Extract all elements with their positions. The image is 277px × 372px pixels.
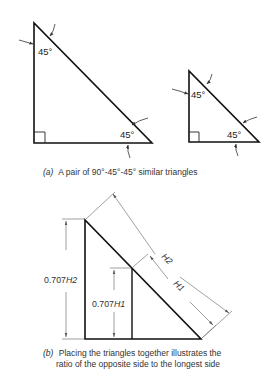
large-triangle-outline [34,23,152,143]
caption-a: (a) A pair of 90°-45°-45° similar triang… [43,167,197,177]
arrow-icon [132,118,148,125]
right-angle-marker [189,132,199,142]
arrow-icon [172,89,188,94]
small-triangle: 45° 45° [172,71,259,156]
dimension-inner-hypotenuse: H1 [133,254,216,338]
arrow-icon [128,145,130,158]
large-bottom-angle-label: 45° [120,129,135,140]
caption-b-line2: ratio of the opposite side to the longes… [56,359,220,369]
large-triangle: 45° 45° [19,23,152,158]
caption-b-label: (b) [43,348,54,358]
arrow-icon [236,144,238,156]
arrow-icon [243,117,257,123]
dimension-inner-height: 0.707H1 [92,268,131,337]
caption-b-line1: (b) Placing the triangles together illus… [43,348,222,358]
dimension-outer-hypotenuse: H2 [86,192,232,338]
caption-a-label: (a) [43,167,54,177]
arrow-icon [19,40,33,44]
similar-triangles-figure: 45° 45° 45° 45° (a) A pair of 90°-45°-45… [0,0,277,372]
part-b: 0.707H2 0.707H1 H2 H1 (b) Placing [43,192,232,369]
part-a: 45° 45° 45° 45° (a) A pair of 90°-45°-45… [19,23,259,177]
arrow-icon [207,74,212,84]
outer-hypotenuse-label: H2 [160,251,175,266]
right-angle-marker [34,132,45,143]
arrow-icon [50,24,55,36]
caption-b-text-1: Placing the triangles together illustrat… [59,348,222,358]
inner-height-label: 0.707H1 [92,299,125,309]
dimension-outer-height: 0.707H2 [44,219,84,339]
large-top-angle-label: 45° [38,46,53,57]
small-bottom-angle-label: 45° [227,129,242,140]
caption-a-text: A pair of 90°-45°-45° similar triangles [58,167,197,177]
outer-height-label: 0.707H2 [44,275,77,285]
small-triangle-outline [189,71,259,142]
small-top-angle-label: 45° [191,89,206,100]
